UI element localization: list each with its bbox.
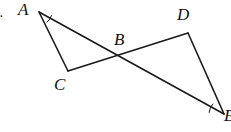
geometry-figure: ABCDE. [0, 0, 231, 132]
segment-d-e [188, 33, 224, 114]
vertex-label-edge-mark: . [0, 6, 4, 20]
vertex-label-c: C [54, 76, 65, 93]
vertex-label-e: E [224, 107, 231, 124]
geometry-canvas [0, 0, 231, 132]
vertex-label-a: A [18, 1, 28, 18]
segments-group [39, 12, 224, 114]
segment-a-e [39, 12, 224, 114]
vertex-label-b: B [114, 31, 124, 48]
vertex-label-d: D [177, 6, 189, 23]
